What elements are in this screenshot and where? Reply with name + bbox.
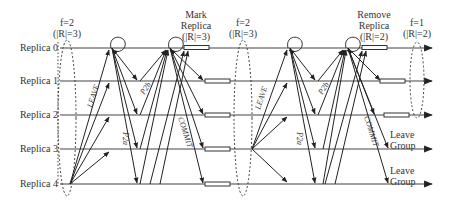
replica-label-3: Replica 3 — [0, 143, 58, 154]
phase-final-r: (|R|=2) — [399, 28, 435, 39]
phase-middle-f: f=2 — [225, 17, 261, 28]
leave-group-4-line2: Group — [390, 176, 426, 187]
replica-label-4: Replica 4 — [0, 178, 58, 189]
phase-final: f=1 (|R|=2) — [399, 17, 435, 39]
leave-group-3-line1: Leave — [390, 129, 426, 140]
phase-initial: f=2 (|R|=3) — [49, 17, 85, 39]
phase-mark-line1: Mark — [176, 9, 216, 20]
label-p2a-2: P2a — [295, 131, 304, 145]
ellipse-middle — [234, 40, 252, 196]
mark-boxes — [184, 46, 230, 187]
leave-messages-2 — [252, 50, 287, 182]
p2b-messages-2 — [318, 50, 346, 184]
phase-initial-r: (|R|=3) — [49, 28, 85, 39]
self-loops — [111, 37, 361, 51]
phase-remove-line1: Remove — [354, 9, 394, 20]
ellipse-final — [410, 42, 424, 118]
leave-group-replica-3: Leave Group — [390, 129, 426, 151]
replica-label-0: Replica 0 — [0, 42, 58, 53]
phase-middle: f=2 (|R|=3) — [225, 17, 261, 39]
phase-initial-f: f=2 — [49, 17, 85, 28]
leave-group-3-line2: Group — [390, 140, 426, 151]
label-commit-1: COMMIT — [176, 116, 194, 149]
label-p2b-1: P2b — [138, 80, 153, 97]
crossing-lines-2 — [325, 51, 366, 184]
phase-remove-line2: Replica — [354, 20, 394, 31]
phase-middle-r: (|R|=3) — [225, 28, 261, 39]
replica-label-1: Replica 1 — [0, 75, 58, 86]
label-p2a-1: P2a — [121, 131, 130, 145]
leave-group-4-line1: Leave — [390, 165, 426, 176]
phase-remove-line3: (|R|=2) — [354, 31, 394, 42]
label-commit-2: COMMIT — [362, 115, 380, 148]
label-leave-1: LEAVE — [85, 83, 101, 109]
phase-mark-line2: Replica — [176, 20, 216, 31]
phase-remove-replica: Remove Replica (|R|=2) — [354, 9, 394, 42]
phase-mark-replica: Mark Replica (|R|=3) — [176, 9, 216, 42]
phase-mark-line3: (|R|=3) — [176, 31, 216, 42]
replica-label-2: Replica 2 — [0, 109, 58, 120]
leave-group-replica-4: Leave Group — [390, 165, 426, 187]
phase-final-f: f=1 — [399, 17, 435, 28]
label-p2b-2: P2b — [316, 80, 331, 97]
